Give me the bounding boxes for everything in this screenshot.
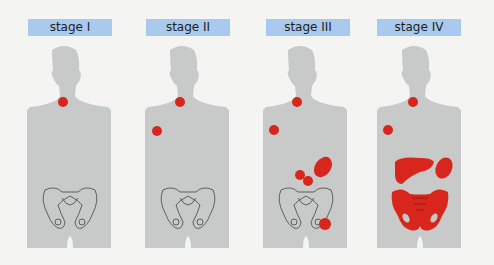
body-icon (27, 46, 111, 248)
abdominal-lymph-node-lesion (295, 170, 305, 180)
body-silhouette-stage-4 (350, 0, 490, 265)
neck-lymph-node-lesion (408, 97, 418, 107)
neck-lymph-node-lesion (292, 97, 302, 107)
stage-3-panel: stage III (234, 0, 354, 265)
body-icon (263, 46, 347, 248)
neck-lymph-node-lesion (58, 97, 68, 107)
inguinal-lymph-node-lesion (319, 218, 331, 230)
axillary-lymph-node-lesion (383, 125, 393, 135)
axillary-lymph-node-lesion (152, 126, 162, 136)
body-icon (145, 46, 229, 248)
stage-4-panel: stage IV (350, 0, 470, 265)
axillary-lymph-node-lesion (269, 125, 279, 135)
neck-lymph-node-lesion (175, 97, 185, 107)
abdominal-lymph-node-lesion (303, 176, 313, 186)
stage-1-panel: stage I (0, 0, 120, 265)
stage-2-panel: stage II (118, 0, 238, 265)
